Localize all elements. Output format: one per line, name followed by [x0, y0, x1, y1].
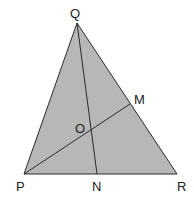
- label-point-r: R: [177, 179, 186, 194]
- triangle-diagram: Q P R N M O: [0, 0, 194, 201]
- label-point-o: O: [75, 121, 85, 136]
- triangle-pqr: [24, 23, 177, 174]
- label-point-q: Q: [70, 6, 80, 21]
- label-point-n: N: [92, 179, 101, 194]
- label-point-m: M: [134, 92, 145, 107]
- label-point-p: P: [16, 179, 25, 194]
